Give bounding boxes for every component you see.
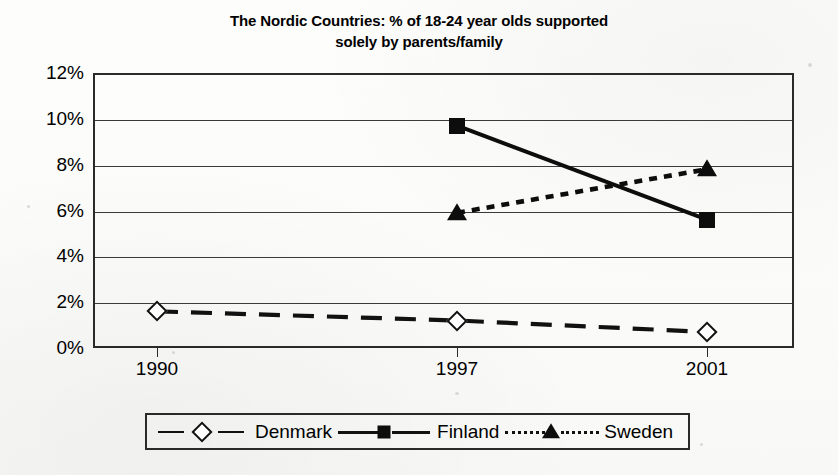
data-point-marker-finland[interactable] — [699, 212, 715, 228]
y-tick-label: 0% — [0, 337, 84, 359]
legend-symbol — [378, 425, 391, 438]
y-tick-label: 6% — [0, 200, 84, 222]
y-tick-label: 4% — [0, 245, 84, 267]
chart-page: The Nordic Countries: % of 18-24 year ol… — [0, 0, 838, 475]
y-tick-label: 12% — [0, 62, 84, 84]
x-tick-mark — [707, 348, 708, 357]
legend-marker-open-diamond — [156, 422, 248, 442]
legend-symbol — [542, 423, 560, 438]
legend-entry-denmark[interactable]: Denmark — [156, 421, 338, 443]
y-tick-label: 10% — [0, 108, 84, 130]
y-axis-tick-labels: 0%2%4%6%8%10%12% — [0, 0, 84, 475]
y-tick-label: 8% — [0, 154, 84, 176]
x-tick-label: 1997 — [397, 358, 517, 380]
x-tick-label: 2001 — [647, 358, 767, 380]
x-tick-mark — [457, 348, 458, 357]
gridline — [95, 212, 792, 213]
legend-label: Sweden — [597, 421, 679, 443]
gridline — [95, 120, 792, 121]
data-point-marker-sweden[interactable] — [447, 203, 467, 220]
data-point-marker-sweden[interactable] — [697, 159, 717, 176]
chart-title: The Nordic Countries: % of 18-24 year ol… — [0, 10, 838, 52]
legend-label: Denmark — [248, 421, 338, 443]
gridline — [95, 166, 792, 167]
legend-entry-sweden[interactable]: Sweden — [505, 421, 679, 443]
gridline — [95, 257, 792, 258]
data-point-marker-finland[interactable] — [449, 118, 465, 134]
y-tick-label: 2% — [0, 291, 84, 313]
gridline — [95, 303, 792, 304]
legend-entry-finland[interactable]: Finland — [338, 421, 505, 443]
legend-label: Finland — [430, 421, 505, 443]
plot-area — [93, 73, 794, 348]
legend-marker-filled-square — [338, 422, 430, 442]
x-tick-label: 1990 — [97, 358, 217, 380]
legend-symbol — [191, 421, 212, 442]
x-tick-mark — [157, 348, 158, 357]
legend[interactable]: DenmarkFinlandSweden — [145, 413, 690, 450]
legend-marker-filled-triangle — [505, 422, 597, 442]
